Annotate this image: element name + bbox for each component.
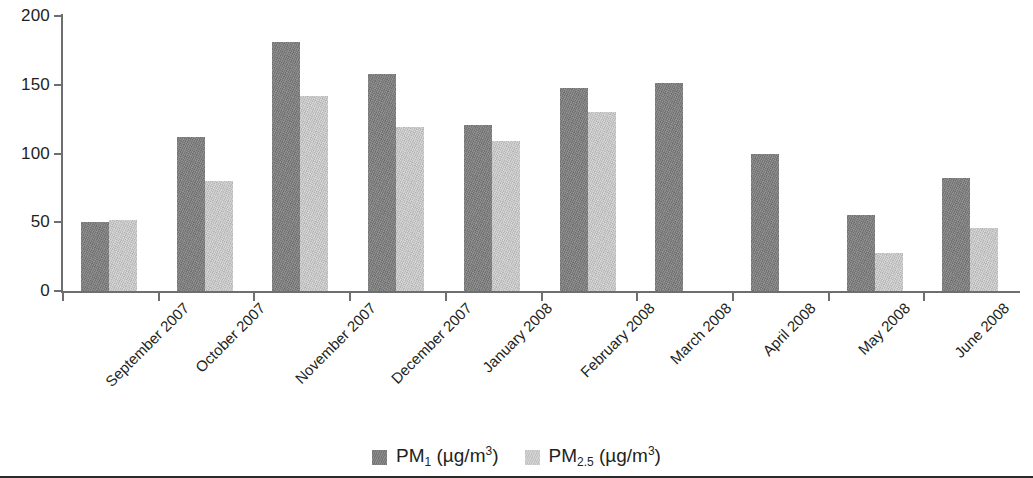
x-axis-category-label: November 2007: [293, 300, 380, 387]
bar-pm1: [272, 42, 300, 291]
bar-pm1: [368, 74, 396, 291]
x-axis-tick: [349, 292, 351, 301]
bar-pm1: [751, 154, 779, 292]
y-axis-tick: [54, 15, 62, 17]
y-axis-tick-label: 150: [4, 76, 50, 93]
x-axis-tick: [636, 292, 638, 301]
bar-chart: 200150100500 PM1 (µg/m3)PM2.5 (µg/m3) Se…: [0, 0, 1033, 478]
x-axis-tick: [923, 292, 925, 301]
bar-pm1: [464, 125, 492, 291]
x-axis-category-label: March 2008: [667, 300, 734, 367]
legend-swatch-icon: [525, 450, 540, 465]
legend-label: PM2.5 (µg/m3): [549, 446, 661, 468]
x-axis-category-label: January 2008: [479, 300, 555, 376]
legend-item[interactable]: PM2.5 (µg/m3): [525, 446, 661, 468]
x-axis-category-label: September 2007: [102, 300, 192, 390]
bar-pm25: [492, 141, 520, 291]
bar-pm1: [560, 88, 588, 292]
bar-pm1: [942, 178, 970, 291]
legend-swatch-icon: [372, 450, 387, 465]
y-axis-tick-label: 50: [4, 213, 50, 230]
y-axis-tick-label: 0: [4, 282, 50, 299]
y-axis-tick-label: 100: [4, 145, 50, 162]
bar-pm25: [205, 181, 233, 291]
bar-pm25: [109, 220, 137, 292]
bar-pm25: [588, 112, 616, 291]
bar-pm1: [81, 222, 109, 291]
legend-label: PM1 (µg/m3): [396, 446, 498, 468]
x-axis-tick: [732, 292, 734, 301]
bar-pm1: [655, 83, 683, 291]
y-axis-tick-label: 200: [4, 7, 50, 24]
x-axis-category-label: December 2007: [388, 300, 475, 387]
y-axis-tick: [54, 290, 62, 292]
x-axis-category-label: April 2008: [760, 300, 819, 359]
bar-pm25: [300, 96, 328, 291]
x-axis-tick: [158, 292, 160, 301]
x-axis-category-label: October 2007: [192, 300, 268, 376]
bar-pm25: [875, 253, 903, 292]
bar-pm1: [177, 137, 205, 291]
bar-pm25: [396, 127, 424, 291]
x-axis-tick: [828, 292, 830, 301]
plot-area: [61, 16, 1020, 291]
bar-pm1: [847, 215, 875, 291]
bar-pm25: [970, 228, 998, 291]
chart-legend: PM1 (µg/m3)PM2.5 (µg/m3): [0, 446, 1033, 468]
x-axis-tick: [445, 292, 447, 301]
legend-item[interactable]: PM1 (µg/m3): [372, 446, 498, 468]
y-axis-labels: 200150100500: [0, 0, 50, 300]
x-axis-tick: [62, 292, 64, 301]
y-axis-tick: [54, 153, 62, 155]
y-axis-tick: [54, 84, 62, 86]
x-axis-category-label: May 2008: [855, 300, 913, 358]
x-axis-tick: [253, 292, 255, 301]
y-axis-tick: [54, 221, 62, 223]
x-axis-tick: [541, 292, 543, 301]
x-axis-category-label: February 2008: [577, 300, 657, 380]
x-axis-category-label: June 2008: [952, 300, 1013, 361]
